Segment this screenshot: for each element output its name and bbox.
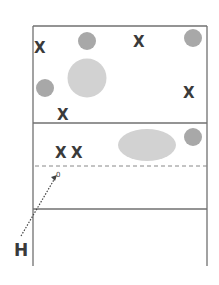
small-circle — [78, 32, 96, 50]
x-marker: X — [71, 144, 83, 162]
x-marker: X — [34, 39, 46, 57]
large-ellipse — [118, 129, 176, 161]
dotted-arrow-line — [21, 178, 55, 236]
large-circle — [68, 59, 107, 98]
x-marker: X — [133, 33, 145, 51]
x-marker: X — [55, 144, 67, 162]
x-marker: X — [57, 106, 69, 124]
small-circle — [184, 128, 202, 146]
x-marker: X — [183, 84, 195, 102]
point-label-h: H — [14, 240, 28, 260]
small-circle — [36, 79, 54, 97]
diagram-canvas: X X X X X X 0 H — [0, 0, 219, 285]
arrow-label: 0 — [56, 171, 60, 179]
small-circle — [184, 29, 202, 47]
